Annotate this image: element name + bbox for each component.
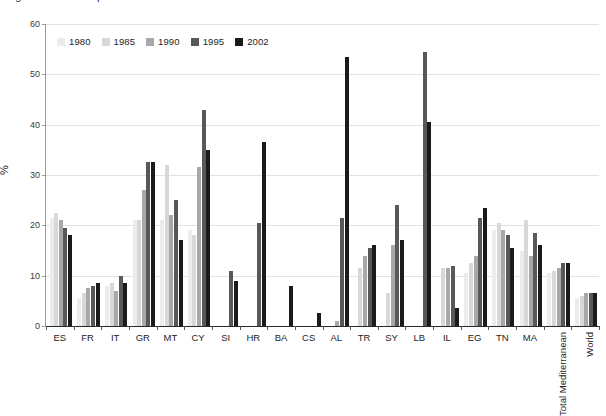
- bar-si-1995[interactable]: [229, 271, 233, 326]
- bar-gr-1985[interactable]: [137, 220, 141, 326]
- bar-eg-1980[interactable]: [464, 273, 468, 326]
- bar-gr-1990[interactable]: [142, 190, 146, 326]
- legend-item-1985[interactable]: 1985: [102, 36, 136, 47]
- bar-tn-2002[interactable]: [510, 248, 514, 326]
- bar-world-1980[interactable]: [575, 298, 579, 326]
- legend-item-1980[interactable]: 1980: [57, 36, 91, 47]
- legend-label: 1985: [114, 36, 136, 47]
- bar-world-2002[interactable]: [593, 293, 597, 326]
- y-tick-label: 10: [0, 271, 40, 281]
- bar-mt-1990[interactable]: [169, 215, 173, 326]
- bar-es-1990[interactable]: [59, 220, 63, 326]
- bar-group-world: [572, 24, 600, 326]
- bar-ma-2002[interactable]: [538, 245, 542, 326]
- bar-tn-1995[interactable]: [506, 235, 510, 326]
- bar-cy-1985[interactable]: [192, 235, 196, 326]
- y-tick-label: 50: [0, 69, 40, 79]
- bar-it-1990[interactable]: [114, 291, 118, 326]
- bar-world-1995[interactable]: [589, 293, 593, 326]
- bar-total-mediterranean-1990[interactable]: [557, 268, 561, 326]
- bar-cy-1990[interactable]: [197, 167, 201, 326]
- bar-it-1980[interactable]: [105, 286, 109, 326]
- bar-total-mediterranean-1980[interactable]: [547, 273, 551, 326]
- bar-il-1990[interactable]: [446, 268, 450, 326]
- bar-group-ba: [268, 24, 296, 326]
- bar-gr-1980[interactable]: [133, 220, 137, 326]
- bar-cy-2002[interactable]: [206, 150, 210, 326]
- x-tick-label-gr: GR: [136, 332, 150, 343]
- bar-al-2002[interactable]: [345, 57, 349, 326]
- y-tick-label: 40: [0, 120, 40, 130]
- legend-item-2002[interactable]: 2002: [235, 36, 269, 47]
- bar-lb-2002[interactable]: [427, 122, 431, 326]
- bar-al-1995[interactable]: [340, 218, 344, 326]
- x-tick-mark: [599, 326, 600, 330]
- bar-it-2002[interactable]: [123, 283, 127, 326]
- bar-cy-1980[interactable]: [188, 230, 192, 326]
- bar-si-2002[interactable]: [234, 281, 238, 326]
- bar-tr-1990[interactable]: [363, 256, 367, 326]
- x-tick-label-ma: MA: [523, 332, 537, 343]
- bar-eg-2002[interactable]: [483, 208, 487, 326]
- bar-cs-2002[interactable]: [317, 313, 321, 326]
- bar-fr-1995[interactable]: [91, 286, 95, 326]
- bar-mt-1980[interactable]: [160, 220, 164, 326]
- bar-ma-1985[interactable]: [524, 220, 528, 326]
- bar-es-1985[interactable]: [54, 213, 58, 326]
- bar-sy-1995[interactable]: [395, 205, 399, 326]
- bar-group-cy: [185, 24, 213, 326]
- bar-world-1985[interactable]: [580, 296, 584, 326]
- x-tick-label-tr: TR: [358, 332, 371, 343]
- bar-mt-1995[interactable]: [174, 200, 178, 326]
- bar-es-1995[interactable]: [63, 228, 67, 326]
- bar-it-1985[interactable]: [110, 283, 114, 326]
- bar-eg-1990[interactable]: [474, 256, 478, 326]
- bar-mt-1985[interactable]: [165, 165, 169, 326]
- bar-sy-1990[interactable]: [391, 245, 395, 326]
- legend-item-1990[interactable]: 1990: [146, 36, 180, 47]
- bar-hr-2002[interactable]: [262, 142, 266, 326]
- bar-tn-1990[interactable]: [501, 230, 505, 326]
- bar-ma-1980[interactable]: [520, 251, 524, 327]
- plot-area: [45, 24, 599, 327]
- bar-tr-1995[interactable]: [368, 248, 372, 326]
- bar-il-2002[interactable]: [455, 308, 459, 326]
- bar-tr-2002[interactable]: [372, 245, 376, 326]
- bar-ma-1990[interactable]: [529, 256, 533, 326]
- bar-eg-1985[interactable]: [469, 263, 473, 326]
- bar-it-1995[interactable]: [119, 276, 123, 326]
- bar-il-1995[interactable]: [451, 266, 455, 326]
- bar-ba-2002[interactable]: [289, 286, 293, 326]
- bar-fr-1980[interactable]: [77, 298, 81, 326]
- bars-layer: [47, 24, 600, 326]
- x-tick-label-cy: CY: [191, 332, 204, 343]
- bar-ma-1995[interactable]: [533, 233, 537, 326]
- bar-world-1990[interactable]: [584, 293, 588, 326]
- bar-gr-1995[interactable]: [146, 162, 150, 326]
- bar-tn-1980[interactable]: [492, 230, 496, 326]
- bar-eg-1995[interactable]: [478, 218, 482, 326]
- bar-lb-1995[interactable]: [423, 52, 427, 326]
- bar-mt-2002[interactable]: [179, 240, 183, 326]
- bar-fr-1990[interactable]: [86, 288, 90, 326]
- bar-es-1980[interactable]: [50, 218, 54, 326]
- bar-cy-1995[interactable]: [202, 110, 206, 326]
- legend-item-1995[interactable]: 1995: [191, 36, 225, 47]
- bar-total-mediterranean-1995[interactable]: [561, 263, 565, 326]
- bar-es-2002[interactable]: [68, 235, 72, 326]
- bar-gr-2002[interactable]: [151, 162, 155, 326]
- bar-hr-1995[interactable]: [257, 223, 261, 326]
- bar-sy-2002[interactable]: [400, 240, 404, 326]
- bar-group-es: [47, 24, 75, 326]
- bar-tn-1985[interactable]: [497, 223, 501, 326]
- bar-total-mediterranean-2002[interactable]: [566, 263, 570, 326]
- bar-group-il: [434, 24, 462, 326]
- bar-il-1985[interactable]: [441, 268, 445, 326]
- bar-fr-2002[interactable]: [96, 283, 100, 326]
- bar-total-mediterranean-1985[interactable]: [552, 271, 556, 326]
- bar-sy-1985[interactable]: [386, 293, 390, 326]
- bar-tr-1985[interactable]: [358, 268, 362, 326]
- legend-swatch-icon: [235, 38, 243, 46]
- bar-fr-1985[interactable]: [82, 293, 86, 326]
